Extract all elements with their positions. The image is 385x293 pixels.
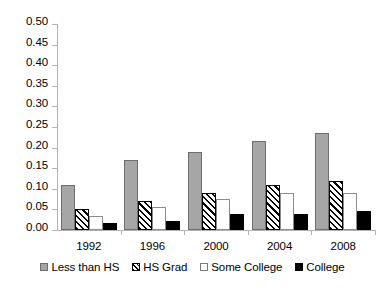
legend-item-label: HS Grad <box>143 261 187 273</box>
bar-group-bars <box>311 24 375 230</box>
bar[interactable] <box>152 207 166 230</box>
bar[interactable] <box>357 211 371 230</box>
legend-swatch-icon <box>200 263 208 271</box>
x-axis-tick-label: 2008 <box>311 240 375 253</box>
bar-group-bars <box>184 24 248 230</box>
bar-chart: 0.500.450.400.350.300.250.200.150.100.05… <box>0 0 385 293</box>
x-axis-tick-label: 2000 <box>184 240 248 253</box>
legend-item[interactable]: HS Grad <box>132 261 187 273</box>
bar[interactable] <box>138 201 152 230</box>
legend-item[interactable]: College <box>295 261 344 273</box>
legend-item[interactable]: Less than HS <box>40 261 119 273</box>
bar[interactable] <box>343 193 357 230</box>
x-axis-tick-mark <box>184 230 185 235</box>
bar[interactable] <box>329 181 343 230</box>
x-axis-tick-mark <box>311 230 312 235</box>
y-axis-tick-label: 0.10 <box>26 181 48 193</box>
bar[interactable] <box>266 185 280 230</box>
x-axis-tick-label: 1996 <box>121 240 185 253</box>
y-axis-tick-mark <box>52 230 57 231</box>
bar-group-bars <box>57 24 121 230</box>
bar[interactable] <box>294 214 308 230</box>
bar-group <box>248 24 312 230</box>
legend-swatch-icon <box>132 263 140 271</box>
x-axis-tick-mark <box>375 230 376 235</box>
y-axis-tick-label: 0.20 <box>26 140 48 152</box>
legend-item-label: Less than HS <box>51 261 119 273</box>
bar[interactable] <box>75 209 89 230</box>
bar[interactable] <box>89 216 103 230</box>
y-axis-tick-label: 0.15 <box>26 160 48 172</box>
legend-swatch-icon <box>40 263 48 271</box>
bar-group-bars <box>121 24 185 230</box>
x-axis-tick-label: 2004 <box>248 240 312 253</box>
chart-legend: Less than HSHS GradSome CollegeCollege <box>0 261 385 273</box>
legend-item-label: College <box>306 261 344 273</box>
x-axis-line <box>57 230 375 231</box>
bar-group <box>121 24 185 230</box>
legend-swatch-icon <box>295 263 303 271</box>
y-axis-tick-label: 0.45 <box>26 37 48 49</box>
legend-item-label: Some College <box>211 261 282 273</box>
bar[interactable] <box>166 221 180 230</box>
legend-item[interactable]: Some College <box>200 261 282 273</box>
y-axis-tick-label: 0.25 <box>26 119 48 131</box>
x-axis-tick-mark <box>248 230 249 235</box>
y-axis-tick-label: 0.00 <box>26 222 48 234</box>
bar-group <box>184 24 248 230</box>
bar-group-bars <box>248 24 312 230</box>
bar[interactable] <box>202 193 216 230</box>
bar-group <box>311 24 375 230</box>
bar[interactable] <box>315 133 329 230</box>
x-axis-tick-mark <box>121 230 122 235</box>
bar[interactable] <box>252 141 266 230</box>
y-axis-tick-label: 0.40 <box>26 57 48 69</box>
bar[interactable] <box>103 223 117 230</box>
bar[interactable] <box>61 185 75 230</box>
y-axis-tick-label: 0.35 <box>26 78 48 90</box>
y-axis-tick-label: 0.50 <box>26 16 48 28</box>
bar[interactable] <box>188 152 202 230</box>
bar[interactable] <box>124 160 138 230</box>
plot-area <box>57 24 375 230</box>
y-axis-tick-label: 0.05 <box>26 201 48 213</box>
bar[interactable] <box>216 199 230 230</box>
bar[interactable] <box>280 193 294 230</box>
bar-group <box>57 24 121 230</box>
bar[interactable] <box>230 214 244 230</box>
y-axis-tick-label: 0.30 <box>26 98 48 110</box>
x-axis-tick-label: 1992 <box>57 240 121 253</box>
